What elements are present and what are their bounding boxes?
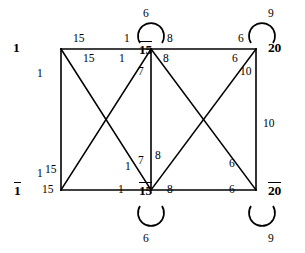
weight-top-left-horizontal-a: 15 <box>73 33 85 45</box>
loop-weight-bottom-right: 9 <box>268 233 274 245</box>
weight-bottom-right-horizontal-a: 8 <box>167 184 173 196</box>
weight-top-right-horizontal-b: 6 <box>238 33 244 45</box>
weight-mid-vertical-top: 7 <box>138 66 144 78</box>
node-label-1[interactable]: 1 <box>13 41 20 55</box>
weight-diag-tr-b: 6 <box>232 53 238 65</box>
weight-bottom-left-horizontal-a: 15 <box>42 184 54 196</box>
node-label-20-bar[interactable]: 20 <box>268 182 281 197</box>
weight-top-left-horizontal-b: 1 <box>124 33 130 45</box>
graph-edges-svg <box>0 0 305 253</box>
node-label-15-bar[interactable]: 15 <box>139 182 152 197</box>
self-loop-n5 <box>138 206 164 226</box>
node-label-20[interactable]: 20 <box>268 41 281 55</box>
loop-weight-bottom-middle: 6 <box>143 233 149 245</box>
self-loop-n6 <box>249 206 275 226</box>
self-loop-n2 <box>138 23 164 43</box>
weight-left-vertical-top: 1 <box>37 68 43 80</box>
graph-diagram-canvas: 1 15 20 1 15 20 15 1 8 6 15 1 8 6 1 7 10… <box>0 0 305 253</box>
weight-mid-vertical-bottom: 7 <box>138 155 144 167</box>
loop-weight-top-right: 9 <box>268 8 274 20</box>
node-label-1-bar[interactable]: 1 <box>14 182 21 197</box>
weight-left-vertical-bottom: 1 <box>37 168 43 180</box>
weight-diag-tr-a: 8 <box>163 53 169 65</box>
weight-bottom-right-horizontal-b: 6 <box>229 184 235 196</box>
weight-diag-tl-b: 1 <box>119 53 125 65</box>
weight-right-vertical: 10 <box>263 118 275 130</box>
weight-diag-br-a: 8 <box>155 150 161 162</box>
weight-diag-right-10a: 10 <box>240 66 252 78</box>
weight-top-right-horizontal-a: 8 <box>167 33 173 45</box>
weight-diag-tl-a: 15 <box>83 53 95 65</box>
weight-bottom-left-horizontal-b: 1 <box>118 184 124 196</box>
weight-diag-bl-a: 15 <box>45 164 57 176</box>
weight-diag-br-b: 6 <box>229 158 235 170</box>
loop-weight-top-middle: 6 <box>143 8 149 20</box>
weight-diag-bl-b: 1 <box>125 161 131 173</box>
node-label-15[interactable]: 15 <box>139 41 152 56</box>
